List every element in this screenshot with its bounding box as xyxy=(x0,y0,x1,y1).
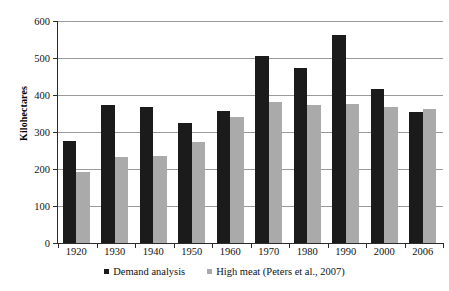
bar-high-meat-1970 xyxy=(269,102,283,243)
y-tick-label: 200 xyxy=(34,164,50,175)
bar-demand-analysis-1950 xyxy=(178,123,192,243)
legend-label: Demand analysis xyxy=(113,266,185,277)
bar-group xyxy=(328,21,367,243)
bar-chart: Kilohectares 0100200300400500600 1920193… xyxy=(0,0,449,291)
bar-group xyxy=(97,21,136,243)
y-tick-label: 400 xyxy=(34,90,50,101)
y-axis-title: Kilohectares xyxy=(18,59,29,169)
bar-demand-analysis-2006 xyxy=(409,112,423,243)
bar-groups xyxy=(58,21,443,243)
bar-group xyxy=(366,21,405,243)
x-tick-label-2000: 2000 xyxy=(374,246,395,257)
bar-high-meat-2006 xyxy=(423,109,437,243)
bar-demand-analysis-1920 xyxy=(63,141,77,243)
bar-group xyxy=(405,21,444,243)
x-tick-label-1990: 1990 xyxy=(335,246,356,257)
y-tick-label: 100 xyxy=(34,201,50,212)
legend-item-demand-analysis: Demand analysis xyxy=(104,266,185,277)
x-tick-label-1940: 1940 xyxy=(143,246,164,257)
x-axis-labels: 1920193019401950196019701980199020002006 xyxy=(57,246,442,262)
x-tick-mark xyxy=(443,243,444,248)
bar-demand-analysis-1940 xyxy=(140,107,154,243)
legend-swatch-icon xyxy=(104,269,109,274)
bar-group xyxy=(212,21,251,243)
chart-legend: Demand analysisHigh meat (Peters et al.,… xyxy=(0,266,449,277)
bar-high-meat-1960 xyxy=(230,117,244,243)
bar-high-meat-1940 xyxy=(153,156,167,243)
bar-high-meat-1980 xyxy=(307,105,321,243)
plot-area: 0100200300400500600 xyxy=(57,21,443,243)
bar-group xyxy=(135,21,174,243)
bar-high-meat-1930 xyxy=(115,157,129,243)
legend-item-high-meat: High meat (Peters et al., 2007) xyxy=(207,266,345,277)
bar-demand-analysis-2000 xyxy=(371,89,385,243)
bar-high-meat-1920 xyxy=(76,172,90,243)
x-tick-label-1950: 1950 xyxy=(181,246,202,257)
bar-demand-analysis-1980 xyxy=(294,68,308,243)
y-tick-label: 600 xyxy=(34,16,50,27)
bar-group xyxy=(251,21,290,243)
bar-group xyxy=(289,21,328,243)
x-tick-label-1980: 1980 xyxy=(297,246,318,257)
x-tick-label-1930: 1930 xyxy=(104,246,125,257)
x-tick-label-1960: 1960 xyxy=(220,246,241,257)
bar-demand-analysis-1960 xyxy=(217,111,231,243)
bar-demand-analysis-1990 xyxy=(332,35,346,243)
x-tick-label-1970: 1970 xyxy=(258,246,279,257)
bar-group xyxy=(58,21,97,243)
y-tick-label: 0 xyxy=(45,238,50,249)
legend-label: High meat (Peters et al., 2007) xyxy=(216,266,345,277)
bar-high-meat-1950 xyxy=(192,142,206,243)
x-tick-label-1920: 1920 xyxy=(66,246,87,257)
y-tick-label: 500 xyxy=(34,53,50,64)
x-tick-label-2006: 2006 xyxy=(412,246,433,257)
bar-high-meat-1990 xyxy=(346,104,360,243)
legend-swatch-icon xyxy=(207,269,212,274)
bar-demand-analysis-1930 xyxy=(101,105,115,243)
y-tick-label: 300 xyxy=(34,127,50,138)
bar-demand-analysis-1970 xyxy=(255,56,269,243)
bar-group xyxy=(174,21,213,243)
bar-high-meat-2000 xyxy=(384,107,398,243)
